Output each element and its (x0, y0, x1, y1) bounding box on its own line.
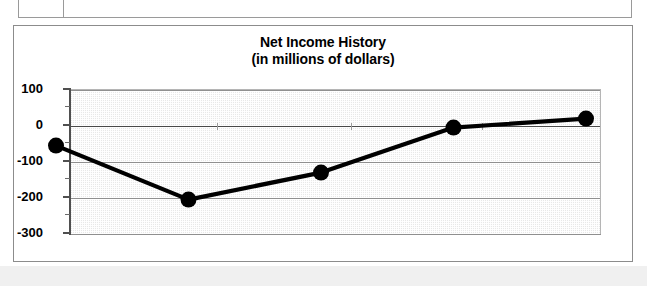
plot-area (69, 89, 601, 235)
scan-bottom-band (0, 266, 647, 286)
gridline-0 (70, 126, 600, 127)
y-tick-minus-200 (63, 196, 70, 198)
y-tick-minus-250 (65, 214, 70, 215)
x-gridtick-2000 (351, 123, 352, 130)
y-tick-minus-150 (65, 178, 70, 179)
chart-title: Net Income History (in millions of dolla… (14, 34, 632, 68)
y-tick-100 (63, 88, 70, 90)
chart-container: Net Income History (in millions of dolla… (13, 25, 633, 262)
y-axis-label-100: 100 (0, 82, 43, 95)
y-axis-label-minus-200: -200 (0, 190, 43, 203)
y-tick-50 (65, 106, 70, 107)
y-axis-label-minus-300: -300 (0, 226, 43, 239)
x-gridtick-2001 (482, 123, 483, 130)
table-cell-divider (63, 0, 64, 17)
table-fragment-above-chart (18, 0, 632, 18)
y-axis-label-minus-100: -100 (0, 154, 43, 167)
y-tick-minus-300 (63, 232, 70, 234)
y-tick-minus-50 (65, 142, 70, 143)
chart-subtitle: (in millions of dollars) (14, 51, 632, 68)
gridline-100 (70, 90, 600, 91)
gridline-minus-100 (70, 162, 600, 163)
gridline-minus-300 (70, 234, 600, 235)
chart-title-main: Net Income History (260, 34, 386, 50)
gridline-minus-200 (70, 198, 600, 199)
scanned-page: Net Income History (in millions of dolla… (0, 0, 647, 286)
y-tick-0 (63, 124, 70, 126)
x-gridtick-1999 (217, 123, 218, 130)
y-axis-label-0: 0 (0, 118, 43, 131)
y-tick-minus-100 (63, 160, 70, 162)
